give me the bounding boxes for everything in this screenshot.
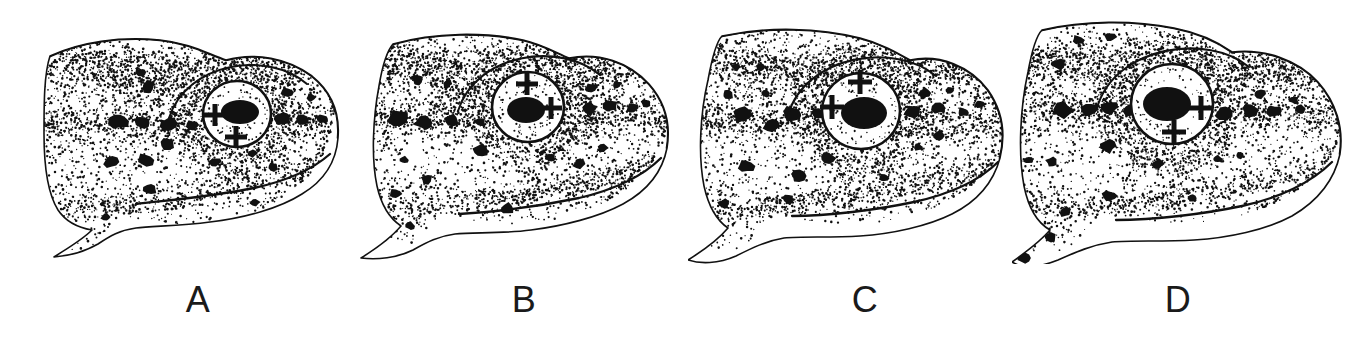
figure-plate: ABCD: [0, 0, 1358, 346]
head-body: [355, 14, 669, 251]
eye: [203, 81, 271, 148]
eye: [1131, 64, 1213, 144]
eye: [492, 72, 564, 142]
eye: [820, 70, 900, 149]
frog-head-drawing-c: [688, 14, 1018, 264]
panel-label-b: B: [494, 282, 554, 318]
head-body: [1012, 12, 1346, 264]
frog-head-drawing-a: [40, 14, 340, 264]
pupil: [1143, 87, 1191, 121]
pupil: [221, 100, 259, 124]
panel-label-d: D: [1148, 282, 1208, 318]
pupil: [841, 97, 887, 129]
frog-head-drawing-b: [355, 14, 675, 264]
head-body: [688, 14, 1012, 251]
pupil: [507, 97, 545, 123]
stipple-shading: [40, 14, 335, 252]
frog-head-drawing-d: [1012, 12, 1352, 264]
panel-label-c: C: [835, 282, 895, 318]
panel-label-a: A: [168, 282, 228, 318]
head-body: [40, 14, 340, 252]
